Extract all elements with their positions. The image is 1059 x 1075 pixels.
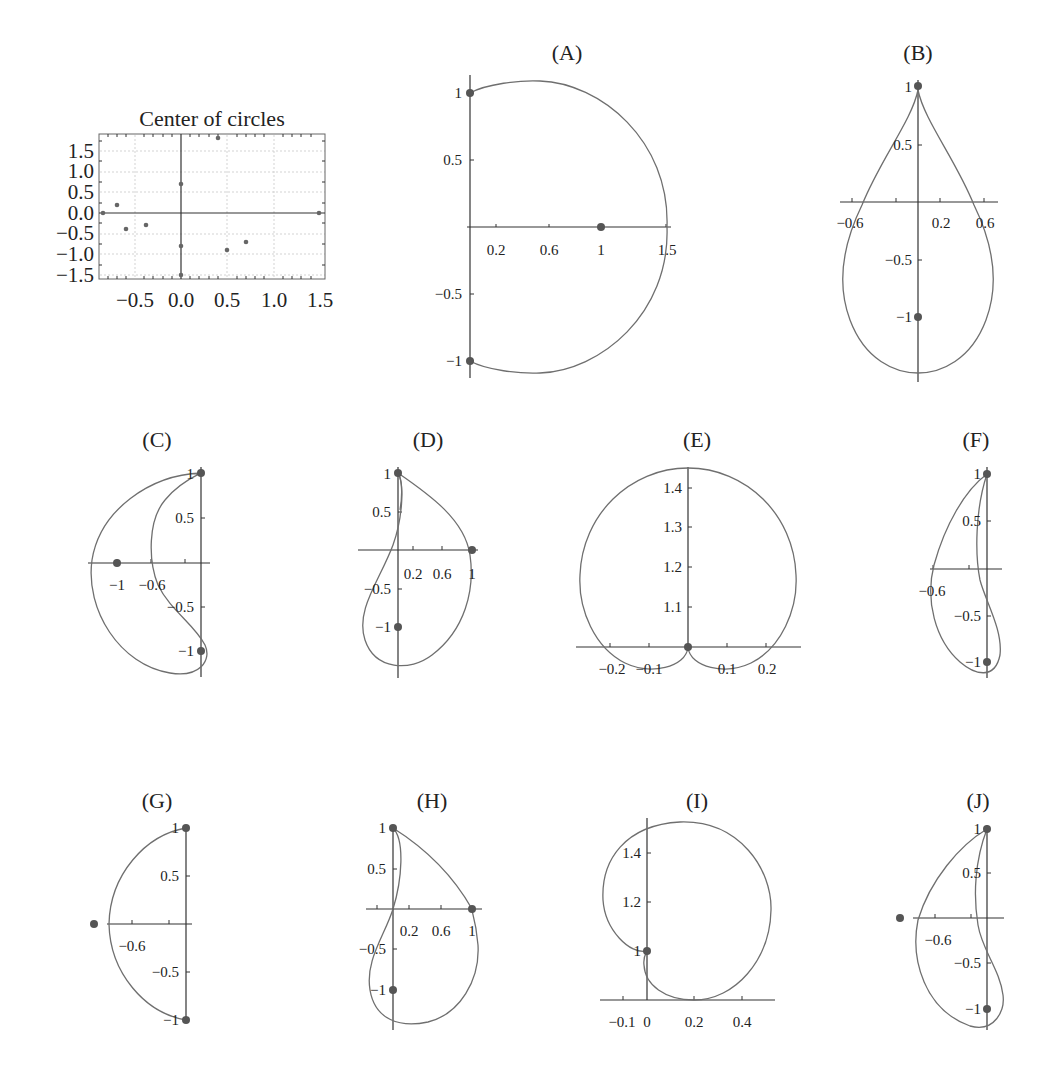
y-tick-label: 1 <box>172 820 180 836</box>
x-tick-label: −0.2 <box>598 661 625 677</box>
y-tick-label: −1 <box>965 654 981 670</box>
panel-title: (I) <box>686 788 708 813</box>
y-tick-label: 1 <box>974 821 982 837</box>
y-tick-label: 1 <box>974 466 982 482</box>
x-tick-label: 1 <box>468 923 476 939</box>
y-tick-label: −0.5 <box>954 608 981 624</box>
panel-title: (A) <box>552 40 583 65</box>
y-tick-label: 1.1 <box>663 599 682 615</box>
x-tick-label: 0.6 <box>432 923 451 939</box>
panel-title: (D) <box>413 427 444 452</box>
y-tick-label: −0.5 <box>359 941 386 957</box>
y-tick-label: 0.5 <box>443 152 462 168</box>
y-tick-label: −0.5 <box>167 599 194 615</box>
y-tick-label: −1 <box>370 982 386 998</box>
y-tick-label: 0.5 <box>962 865 981 881</box>
y-tick-label: 1.4 <box>663 480 682 496</box>
panel-i: (I) −0.1 0 0.2 0.4 1.4 1.2 1 <box>600 788 775 1030</box>
panel-b: (B) −0.6 0.2 0.6 1 0.5 −0.5 −1 <box>836 40 998 382</box>
x-tick-label: 1 <box>597 242 605 258</box>
figure-canvas: Center of circles <box>0 0 1059 1075</box>
panel-d: (D) 0.2 0.6 1 1 0.5 −0.5 −1 <box>358 427 478 678</box>
x-tick-label: 1 <box>468 566 476 582</box>
x-tick-label: 0.6 <box>540 242 559 258</box>
panel-j: (J) −0.6 1 0.5 −0.5 −1 <box>896 788 1004 1030</box>
x-tick-label: 0.6 <box>976 215 995 231</box>
x-tick-label: 0.6 <box>433 566 452 582</box>
y-tick-label: 0.5 <box>175 510 194 526</box>
y-tick-label: −0.5 <box>152 964 179 980</box>
x-tick-label: 0.0 <box>168 288 194 312</box>
panel-e: (E) −0.2 −0.1 0.1 0.2 1.4 1.3 1.2 1.1 <box>576 427 801 677</box>
x-tick-label: −0.6 <box>138 577 166 593</box>
y-tick-label: −0.5 <box>885 252 912 268</box>
panel-title: (F) <box>963 427 990 452</box>
y-tick-label: 1 <box>384 466 392 482</box>
y-tick-label: −1 <box>446 353 462 369</box>
panel-f: (F) −0.6 1 0.5 −0.5 −1 <box>918 427 1002 678</box>
x-tick-label: 1.0 <box>261 288 287 312</box>
y-tick-label: −1 <box>965 1001 981 1017</box>
y-tick-label: 1 <box>187 466 195 482</box>
y-tick-label: −0.5 <box>954 955 981 971</box>
x-tick-label: 1.5 <box>658 242 677 258</box>
panel-a: (A) 0.2 0.6 1 1.5 1 0.5 −0.5 −1 <box>435 40 677 378</box>
x-tick-label: 0.2 <box>685 1014 704 1030</box>
y-tick-label: 1.4 <box>622 845 641 861</box>
panel-title: (H) <box>417 788 448 813</box>
y-tick-label: 1 <box>634 943 642 959</box>
y-tick-label: 0.5 <box>893 137 912 153</box>
x-tick-label: 0.1 <box>718 661 737 677</box>
x-tick-label: −0.6 <box>918 583 946 599</box>
x-tick-label: 1.5 <box>307 288 333 312</box>
x-tick-label: −1 <box>109 577 125 593</box>
scatter-center-of-circles: Center of circles <box>56 106 333 312</box>
x-tick-label: 0.2 <box>404 566 423 582</box>
scatter-points <box>101 136 322 278</box>
x-tick-label: 0.2 <box>758 661 777 677</box>
plot-frame <box>99 134 325 279</box>
panel-c: (C) −1 −0.6 1 0.5 −0.5 −1 <box>88 427 210 677</box>
x-tick-label: −0.6 <box>924 932 952 948</box>
panel-title: (B) <box>903 40 932 65</box>
y-tick-label: −1 <box>896 309 912 325</box>
x-tick-label: −0.5 <box>116 288 154 312</box>
panel-g: (G) −0.6 1 0.5 −0.5 −1 <box>90 788 192 1028</box>
panel-title: (J) <box>966 788 989 813</box>
x-tick-label: 0.2 <box>932 215 951 231</box>
x-tick-label: −0.6 <box>836 215 864 231</box>
y-tick-label: 1.2 <box>622 894 641 910</box>
y-tick-label: −1 <box>375 619 391 635</box>
x-tick-label: −0.1 <box>635 661 662 677</box>
y-tick-label: 0.5 <box>367 861 386 877</box>
y-tick-label: 1.2 <box>663 559 682 575</box>
y-tick-label: −0.5 <box>364 581 391 597</box>
y-tick-label: 0.5 <box>372 504 391 520</box>
y-tick-label: 1 <box>455 85 463 101</box>
y-tick-label: −1 <box>178 643 194 659</box>
y-tick-label: −1 <box>163 1012 179 1028</box>
y-tick-label: −1.5 <box>56 263 94 287</box>
y-tick-label: 0.5 <box>962 513 981 529</box>
scatter-title: Center of circles <box>139 106 284 131</box>
y-tick-label: 0.5 <box>160 868 179 884</box>
y-tick-label: 1 <box>379 820 387 836</box>
y-tick-label: 1.3 <box>663 519 682 535</box>
panel-title: (G) <box>142 788 173 813</box>
x-tick-label: −0.6 <box>118 938 146 954</box>
x-tick-label: 0 <box>643 1014 651 1030</box>
x-tick-label: −0.1 <box>608 1014 635 1030</box>
curve <box>916 829 1003 1027</box>
panel-title: (C) <box>142 427 171 452</box>
y-tick-label: −0.5 <box>435 286 462 302</box>
x-tick-label: 0.2 <box>400 923 419 939</box>
panel-title: (E) <box>683 427 711 452</box>
x-tick-label: 0.2 <box>487 242 506 258</box>
x-tick-label: 0.4 <box>733 1014 752 1030</box>
curve <box>931 474 1001 673</box>
panel-h: (H) 0.2 0.6 1 1 0.5 −0.5 −1 <box>359 788 482 1030</box>
x-tick-label: 0.5 <box>214 288 240 312</box>
y-tick-label: 1 <box>905 79 913 95</box>
